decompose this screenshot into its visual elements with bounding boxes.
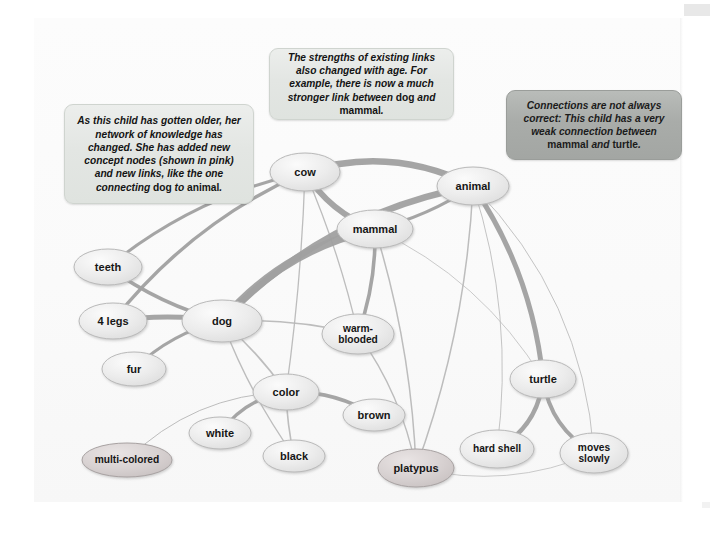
graph-node-color[interactable] [253,374,319,410]
callout-new-nodes-text: As this child has gotten older, her netw… [74,114,244,194]
graph-node-mammal[interactable] [337,210,413,248]
callout-new-nodes: As this child has gotten older, her netw… [64,104,254,204]
graph-node-brown[interactable] [343,399,405,431]
graph-node-animal[interactable] [437,167,509,205]
graph-node-warm_blooded[interactable] [322,314,394,354]
graph-node-moves_slowly[interactable] [560,433,628,473]
graph-edge [416,186,473,468]
graph-node-hard_shell[interactable] [460,430,534,468]
diagram-canvas: cowanimalmammalteeth4 legsdogwarm- blood… [0,0,714,534]
graph-node-turtle[interactable] [510,360,576,398]
graph-node-teeth[interactable] [74,249,142,285]
graph-node-platypus[interactable] [378,449,454,487]
graph-edge [286,172,305,392]
graph-edge [473,186,543,379]
graph-node-white[interactable] [189,417,251,449]
graph-node-four_legs[interactable] [79,303,147,339]
graph-node-dog[interactable] [182,300,262,342]
callout-link-strength-text: The strengths of existing links also cha… [279,51,444,117]
graph-node-multi_colored[interactable] [82,443,172,477]
graph-node-fur[interactable] [102,352,166,386]
graph-node-cow[interactable] [270,153,340,191]
callout-link-strength: The strengths of existing links also cha… [269,48,454,120]
graph-edge [375,229,543,379]
graph-node-black[interactable] [263,440,325,472]
callout-incorrect-connection: Connections are not always correct: This… [506,90,682,160]
callout-incorrect-connection-text: Connections are not always correct: This… [516,99,672,152]
